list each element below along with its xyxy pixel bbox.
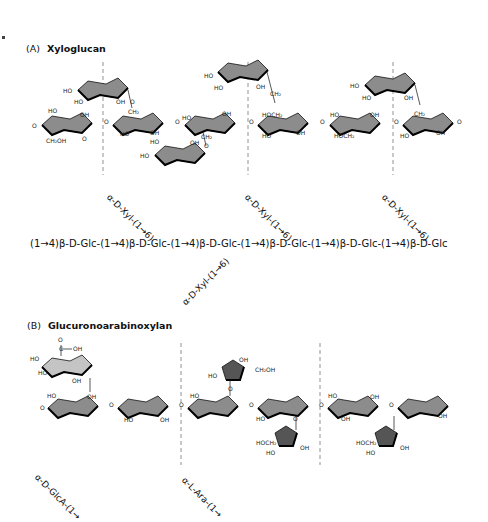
xylose-ring bbox=[218, 60, 268, 82]
atom-label: OH bbox=[404, 94, 413, 101]
atom-label: HO bbox=[140, 152, 150, 159]
atom-label: HO bbox=[63, 87, 73, 94]
atom-label: HO bbox=[120, 130, 130, 137]
atom-label: HO bbox=[400, 132, 410, 139]
atom-label: HO bbox=[208, 372, 218, 379]
atom-label: OH bbox=[370, 111, 379, 118]
atom-label: O bbox=[249, 401, 254, 408]
xyloglucan-structure: O O O O O O O HO OH CH₂OH O HO OH CH₂ OH… bbox=[32, 60, 462, 175]
atom-label: HO bbox=[182, 114, 192, 121]
glucuronic-acid-ring bbox=[42, 355, 92, 377]
atom-label: HO bbox=[204, 72, 214, 79]
xylose-ring bbox=[118, 396, 168, 418]
glucose-ring bbox=[403, 113, 453, 135]
xylose-ring bbox=[155, 143, 205, 165]
atom-label: OH bbox=[438, 412, 447, 419]
atom-label: OH bbox=[239, 356, 248, 363]
atom-label: O bbox=[228, 385, 233, 392]
atom-label: HO bbox=[330, 111, 340, 118]
atom-label: HOCH₂ bbox=[356, 439, 377, 446]
atom-label: CH₂ bbox=[270, 90, 282, 97]
atom-label: O bbox=[389, 401, 394, 408]
atom-label: O bbox=[104, 118, 109, 125]
arabinose-ring bbox=[222, 360, 244, 380]
atom-label: O bbox=[320, 118, 325, 125]
atom-label: HOCH₂ bbox=[262, 111, 283, 118]
xyloglucan-sequence: (1→4)β-D-Glc-(1→4)β-D-Glc-(1→4)β-D-Glc-(… bbox=[30, 238, 448, 249]
atom-label: OH bbox=[160, 416, 169, 423]
atom-label: CH₂OH bbox=[255, 366, 275, 373]
xylose-ring bbox=[188, 396, 238, 418]
atom-label: HO bbox=[328, 392, 338, 399]
atom-label: HO bbox=[190, 392, 200, 399]
atom-label: O bbox=[457, 118, 462, 125]
atom-label: OH bbox=[116, 98, 125, 105]
atom-label: HO bbox=[362, 94, 372, 101]
atom-label: O bbox=[293, 415, 298, 422]
glucuronoarabinoxylan-structure: O O O O O O HO OH HO HO HO HO OH OH OH O… bbox=[30, 336, 448, 465]
atom-label: HO bbox=[74, 98, 84, 105]
atom-label: OH bbox=[341, 415, 350, 422]
atom-label: HO bbox=[256, 415, 266, 422]
atom-label: OH bbox=[80, 111, 89, 118]
arabinose-ring bbox=[275, 426, 297, 446]
atom-label: OH bbox=[150, 129, 159, 136]
atom-label: CH₂ bbox=[128, 108, 140, 115]
atom-label: O bbox=[175, 118, 180, 125]
atom-label: CH₂ bbox=[414, 110, 426, 117]
atom-label: OH bbox=[300, 444, 309, 451]
atom-label: O bbox=[40, 404, 45, 411]
atom-label: HO bbox=[150, 138, 160, 145]
atom-label: OH bbox=[256, 83, 265, 90]
atom-label: O bbox=[58, 336, 63, 343]
atom-label: CH₂OH bbox=[46, 137, 66, 144]
atom-label: HO bbox=[47, 392, 57, 399]
atom-label: OH bbox=[87, 393, 96, 400]
atom-label: HOCH₂ bbox=[334, 132, 355, 139]
atom-label: O bbox=[319, 401, 324, 408]
atom-label: OH bbox=[222, 110, 231, 117]
atom-label: HO bbox=[262, 132, 272, 139]
atom-label: O bbox=[82, 135, 87, 142]
atom-label: HO bbox=[38, 369, 48, 376]
atom-label: HO bbox=[266, 449, 276, 456]
atom-label: CH₂ bbox=[201, 133, 213, 140]
atom-label: O bbox=[130, 98, 135, 105]
atom-label: O bbox=[204, 142, 209, 149]
atom-label: OH bbox=[190, 139, 199, 146]
atom-label: O bbox=[179, 401, 184, 408]
atom-label: HOCH₂ bbox=[256, 439, 277, 446]
atom-label: HO bbox=[214, 84, 224, 91]
xylose-ring bbox=[78, 78, 128, 100]
atom-label: HO bbox=[48, 107, 58, 114]
atom-label: OH bbox=[370, 393, 379, 400]
xylose-ring bbox=[365, 73, 415, 95]
atom-label: HO bbox=[350, 82, 360, 89]
atom-label: O bbox=[109, 401, 114, 408]
atom-label: HO bbox=[30, 355, 40, 362]
atom-label: HO bbox=[366, 449, 376, 456]
atom-label: OH bbox=[400, 444, 409, 451]
atom-label: O bbox=[249, 118, 254, 125]
atom-label: OH bbox=[72, 377, 81, 384]
atom-label: OH bbox=[296, 129, 305, 136]
atom-label: OH bbox=[436, 129, 445, 136]
xylose-ring bbox=[258, 396, 308, 418]
atom-label: HO bbox=[124, 416, 134, 423]
atom-label: OH bbox=[73, 345, 82, 352]
atom-label: O bbox=[32, 122, 37, 129]
atom-label: O bbox=[394, 118, 399, 125]
atom-label: C bbox=[59, 345, 63, 352]
